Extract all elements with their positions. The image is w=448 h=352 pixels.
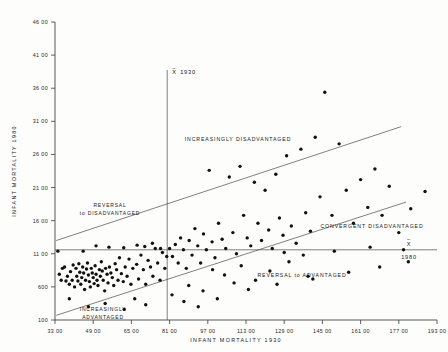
data-point xyxy=(163,267,166,270)
data-point xyxy=(299,147,302,150)
data-point xyxy=(111,276,114,279)
data-point xyxy=(199,261,202,264)
y-tick-label: 16 00 xyxy=(33,218,48,224)
y-tick-label: 11 00 xyxy=(33,251,48,257)
data-point xyxy=(74,267,77,270)
data-point xyxy=(333,249,336,252)
data-point xyxy=(240,264,243,267)
data-point xyxy=(196,244,199,247)
data-point xyxy=(108,265,111,268)
data-point xyxy=(211,268,214,271)
data-point xyxy=(260,239,263,242)
data-point xyxy=(151,241,154,244)
data-point xyxy=(249,244,252,247)
data-point xyxy=(170,293,173,296)
data-point xyxy=(151,275,154,278)
data-point xyxy=(378,265,381,268)
y-tick-label: 100 xyxy=(38,317,48,323)
data-point xyxy=(283,251,286,254)
data-point xyxy=(76,279,79,282)
data-point xyxy=(73,285,76,288)
x-tick-label: 113 00 xyxy=(237,328,255,334)
data-point xyxy=(228,175,231,178)
data-point xyxy=(56,249,59,252)
data-point xyxy=(66,275,69,278)
data-point xyxy=(201,289,204,292)
y-tick-label: 41 00 xyxy=(33,52,48,58)
data-point xyxy=(187,284,190,287)
data-point xyxy=(156,261,159,264)
data-point xyxy=(373,167,376,170)
data-point xyxy=(103,289,106,292)
data-point xyxy=(82,271,85,274)
data-point xyxy=(409,207,412,210)
data-point xyxy=(232,281,235,284)
data-point xyxy=(304,211,307,214)
data-point xyxy=(366,206,369,209)
data-point xyxy=(210,240,213,243)
data-point xyxy=(309,230,312,233)
data-point xyxy=(290,224,293,227)
x-tick-label: 49 00 xyxy=(86,328,101,334)
data-point xyxy=(359,178,362,181)
data-point xyxy=(345,189,348,192)
x-tick-label: 65 00 xyxy=(124,328,139,334)
data-point xyxy=(75,275,78,278)
data-point xyxy=(135,263,138,266)
data-point xyxy=(220,238,223,241)
data-point xyxy=(171,255,174,258)
data-point xyxy=(274,173,277,176)
data-point xyxy=(337,142,340,145)
data-point xyxy=(86,261,89,264)
x-tick-label: 161 00 xyxy=(351,328,370,334)
data-point xyxy=(81,265,84,268)
data-point xyxy=(263,189,266,192)
annotation-reversal-to-disadvantaged-1: REVERSAL xyxy=(93,202,126,208)
data-point xyxy=(94,244,97,247)
data-point xyxy=(99,275,102,278)
data-point xyxy=(368,245,371,248)
data-point xyxy=(139,253,142,256)
mean-1930-label-year: 1930 xyxy=(180,69,196,75)
y-tick-label: 36 00 xyxy=(33,85,48,91)
data-point xyxy=(242,214,245,217)
data-point xyxy=(63,265,66,268)
data-point xyxy=(80,276,83,279)
y-axis-title: INFANT MORTALITY 1980 xyxy=(11,125,17,217)
data-point xyxy=(107,245,110,248)
data-point xyxy=(176,261,179,264)
data-point xyxy=(144,303,147,306)
data-point xyxy=(149,265,152,268)
data-point xyxy=(104,267,107,270)
annotation-increasingly-advantaged-2: ADVANTAGED xyxy=(82,314,124,320)
data-point xyxy=(89,285,92,288)
data-point xyxy=(83,288,86,291)
x-tick-label: 81 00 xyxy=(162,328,177,334)
data-point xyxy=(127,257,130,260)
y-tick-label: 600 xyxy=(38,284,48,290)
data-point xyxy=(116,279,119,282)
data-point xyxy=(347,271,350,274)
data-point xyxy=(311,277,314,280)
data-point xyxy=(81,249,84,252)
data-point xyxy=(352,222,355,225)
data-point xyxy=(247,288,250,291)
data-point xyxy=(238,165,241,168)
data-point xyxy=(193,227,196,230)
data-point xyxy=(77,262,80,265)
data-point xyxy=(68,297,71,300)
y-tick-label: 21 00 xyxy=(33,185,48,191)
data-point xyxy=(64,279,67,282)
data-point xyxy=(302,253,305,256)
data-point xyxy=(190,253,193,256)
data-point xyxy=(115,268,118,271)
data-point xyxy=(146,259,149,262)
data-point xyxy=(95,279,98,282)
data-point xyxy=(161,251,164,254)
data-point xyxy=(120,272,123,275)
mean-1980-label-bar: – xyxy=(407,236,411,242)
data-point xyxy=(179,236,182,239)
mean-1980-label-year: 1980 xyxy=(401,254,417,260)
data-point xyxy=(287,260,290,263)
data-point xyxy=(223,273,226,276)
